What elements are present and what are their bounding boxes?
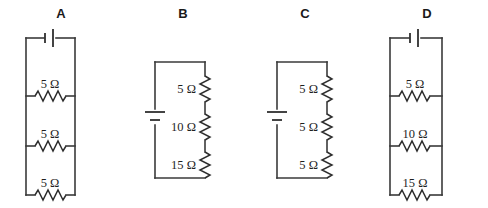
resistor-zigzag-1 — [399, 91, 430, 101]
resistor-zigzag-3 — [200, 152, 210, 178]
resistor-label-2: 5 Ω — [299, 120, 318, 134]
resistor-zigzag-2 — [399, 141, 430, 151]
circuit-a: 5 Ω 5 Ω 5 Ω — [0, 0, 122, 208]
resistor-zigzag-2 — [322, 114, 332, 140]
resistor-zigzag-3 — [399, 190, 430, 200]
resistor-label-3: 5 Ω — [299, 158, 318, 172]
resistor-label-3: 15 Ω — [403, 176, 428, 190]
resistor-label-2: 10 Ω — [171, 120, 196, 134]
resistor-zigzag-1 — [322, 76, 332, 102]
resistor-label-1: 5 Ω — [406, 77, 425, 91]
circuit-a-drawing: 5 Ω 5 Ω 5 Ω — [0, 0, 122, 208]
resistor-label-2: 10 Ω — [403, 127, 428, 141]
resistor-zigzag-1 — [200, 76, 210, 102]
resistor-zigzag-2 — [35, 141, 66, 151]
resistor-zigzag-3 — [35, 190, 66, 200]
circuit-d: 5 Ω 10 Ω 15 Ω — [366, 0, 488, 208]
circuit-d-drawing: 5 Ω 10 Ω 15 Ω — [366, 0, 488, 208]
circuit-b: 5 Ω 10 Ω 15 Ω — [122, 0, 244, 208]
resistor-label-3: 15 Ω — [171, 158, 196, 172]
circuit-c: 5 Ω 5 Ω 5 Ω — [244, 0, 366, 208]
circuit-figure: A 5 Ω 5 Ω 5 Ω — [0, 0, 488, 208]
circuit-b-drawing: 5 Ω 10 Ω 15 Ω — [122, 0, 244, 208]
resistor-zigzag-2 — [200, 114, 210, 140]
resistor-label-1: 5 Ω — [299, 82, 318, 96]
resistor-label-1: 5 Ω — [41, 77, 60, 91]
resistor-zigzag-1 — [35, 91, 66, 101]
resistor-label-3: 5 Ω — [41, 176, 60, 190]
resistor-label-1: 5 Ω — [177, 82, 196, 96]
resistor-label-2: 5 Ω — [41, 127, 60, 141]
circuit-c-drawing: 5 Ω 5 Ω 5 Ω — [244, 0, 366, 208]
resistor-zigzag-3 — [322, 152, 332, 178]
